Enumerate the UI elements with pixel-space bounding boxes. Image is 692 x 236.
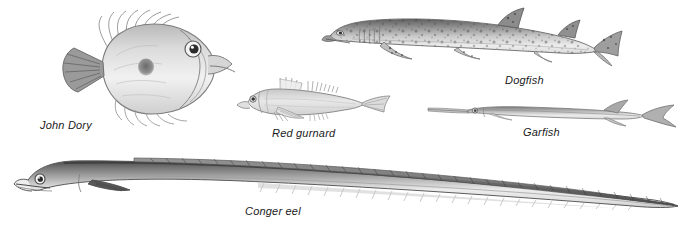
species-label-red-gurnard: Red gurnard	[272, 127, 335, 139]
conger-eel-pectoral-fin	[88, 180, 130, 191]
species-label-garfish: Garfish	[523, 126, 560, 138]
garfish-dorsal-fin	[604, 100, 628, 113]
species-label-conger-eel: Conger eel	[245, 205, 301, 217]
red-gurnard-snout	[237, 102, 250, 109]
dogfish-pelvic-fin	[454, 48, 480, 59]
red-gurnard-body	[248, 89, 364, 115]
fish-illustration-red-gurnard	[234, 74, 394, 126]
garfish-caudal-fin	[642, 105, 676, 127]
dogfish-first-dorsal-fin	[498, 8, 524, 28]
species-label-john-dory: John Dory	[40, 119, 92, 131]
dogfish-second-dorsal-fin	[558, 20, 580, 38]
john-dory-flank-spot	[138, 59, 154, 76]
fish-illustration-conger-eel	[14, 148, 682, 226]
fish-illustration-garfish	[428, 96, 678, 126]
fish-illustration-john-dory	[30, 4, 245, 128]
john-dory-snout	[208, 55, 232, 74]
fish-illustration-dogfish	[322, 6, 622, 76]
john-dory-body	[102, 24, 215, 114]
fish-illustration-plate: John Dory	[0, 0, 692, 236]
species-label-dogfish: Dogfish	[505, 74, 544, 86]
